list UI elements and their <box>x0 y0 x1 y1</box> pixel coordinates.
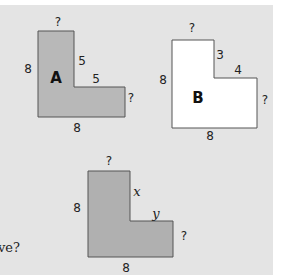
shape-a-top-label: ? <box>55 16 61 28</box>
shape-b-inner-vertical-label: 3 <box>216 49 224 61</box>
shape-c-right-label: ? <box>181 230 187 242</box>
shape-c-inner-horizontal-label-y: y <box>152 207 159 220</box>
shape-a-bottom-label: 8 <box>73 122 81 134</box>
shape-a-left-label: 8 <box>24 63 32 75</box>
shape-c-bottom-label: 8 <box>122 262 130 274</box>
shape-c <box>88 171 173 257</box>
shape-b-bottom-label: 8 <box>206 130 214 142</box>
shape-c-inner-vertical-label-x: x <box>133 185 140 198</box>
question-text-fragment: ve? <box>0 240 20 255</box>
shape-a-inner-vertical-label: 5 <box>78 55 86 67</box>
shape-c-left-label: 8 <box>73 202 81 214</box>
l-shapes-diagram <box>0 0 285 275</box>
shape-a-inner-horizontal-label: 5 <box>92 73 100 85</box>
shape-a-right-label: ? <box>128 92 134 104</box>
shape-b <box>172 40 257 128</box>
shape-b-name: B <box>192 91 203 106</box>
shape-c-top-label: ? <box>106 155 112 167</box>
shape-a-name: A <box>50 71 62 86</box>
shape-b-inner-horizontal-label: 4 <box>234 64 242 76</box>
shape-b-top-label: ? <box>189 22 195 34</box>
shape-b-left-label: 8 <box>159 74 167 86</box>
shape-b-right-label: ? <box>262 94 268 106</box>
